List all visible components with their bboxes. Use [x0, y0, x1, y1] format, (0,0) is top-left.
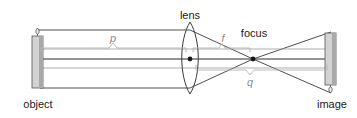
- focal-length-label: f: [221, 33, 224, 44]
- object-label: object: [23, 99, 52, 110]
- focus-point-dot: [251, 57, 256, 62]
- object-candle: [32, 28, 43, 88]
- image-distance-label: q: [247, 77, 253, 88]
- lens-label: lens: [180, 10, 200, 21]
- focus-label: focus: [241, 28, 267, 39]
- ray-group: [38, 30, 331, 93]
- image-label: image: [317, 99, 347, 110]
- object-candle-flame: [36, 28, 39, 34]
- ray-lower-refracted: [190, 32, 331, 88]
- brace-object-distance: [41, 43, 186, 52]
- object-candle-shading: [39, 36, 43, 88]
- image-candle: [325, 33, 336, 93]
- image-candle-shading: [332, 33, 336, 85]
- brace-focal-length: [193, 44, 250, 53]
- ray-diagram-svg: [0, 0, 357, 118]
- brace-image-distance: [196, 65, 327, 75]
- object-distance-label: p: [110, 33, 116, 44]
- lens-center-dot: [188, 57, 193, 62]
- figure-canvas: lens focus object image p f q: [0, 0, 357, 118]
- image-candle-flame: [329, 87, 332, 93]
